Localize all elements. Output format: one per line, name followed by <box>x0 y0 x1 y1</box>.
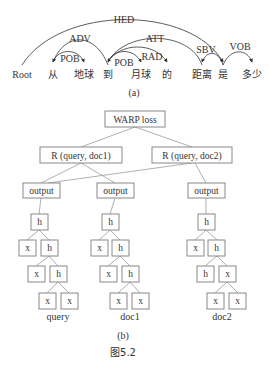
svg-text:h: h <box>37 217 42 227</box>
figure-caption: 图5.2 <box>110 347 136 358</box>
svg-text:x: x <box>235 296 240 306</box>
tree-label-doc1: doc1 <box>120 311 139 322</box>
arc-sbv <box>202 53 223 65</box>
figure-5-2: HED ADV POB ATT POB RAD SBV VOB Root 从 地… <box>0 0 270 380</box>
arc-label-pob-1: POB <box>60 53 80 64</box>
sentence-words: Root 从 地球 到 月球 的 距离 是 多少 <box>12 68 262 80</box>
arc-label-pob-2: POB <box>114 57 134 68</box>
warp-loss-label: WARP loss <box>113 115 157 125</box>
caption-b: (b) <box>117 330 129 342</box>
caption-a: (a) <box>128 87 139 99</box>
rank-label-doc2: R (query, doc2) <box>162 151 221 162</box>
warp-loss-node: WARP loss <box>105 111 165 127</box>
svg-text:h: h <box>118 243 123 253</box>
svg-text:x: x <box>213 296 218 306</box>
tree-label-doc2: doc2 <box>212 311 231 322</box>
output-node-query: output <box>23 183 60 198</box>
word: 从 <box>48 69 58 80</box>
svg-text:h: h <box>214 243 219 253</box>
output-node-doc2: output <box>188 183 225 198</box>
svg-text:x: x <box>45 296 50 306</box>
svg-text:x: x <box>67 296 72 306</box>
svg-text:x: x <box>106 269 111 279</box>
svg-text:x: x <box>193 243 198 253</box>
svg-text:x: x <box>25 243 30 253</box>
arc-label-hed: HED <box>114 14 135 25</box>
svg-text:x: x <box>34 269 39 279</box>
svg-text:h: h <box>108 217 113 227</box>
word: 的 <box>162 68 172 80</box>
svg-text:h: h <box>203 269 208 279</box>
svg-text:h: h <box>56 269 61 279</box>
svg-text:h: h <box>204 217 209 227</box>
svg-text:h: h <box>47 243 52 253</box>
word-root: Root <box>12 69 32 80</box>
svg-text:h: h <box>128 269 133 279</box>
word: 多少 <box>242 68 262 80</box>
dependency-parse: HED ADV POB ATT POB RAD SBV VOB Root 从 地… <box>12 14 262 99</box>
word: 地球 <box>74 68 94 80</box>
svg-text:output: output <box>29 186 54 196</box>
arc-label-rad: RAD <box>141 51 162 62</box>
word: 是 <box>218 69 228 80</box>
arc-label-adv: ADV <box>69 33 91 44</box>
tree-label-query: query <box>47 311 70 322</box>
svg-text:x: x <box>97 243 102 253</box>
dependency-arcs <box>22 20 252 65</box>
word: 月球 <box>131 68 151 80</box>
word: 距离 <box>192 68 212 80</box>
svg-text:output: output <box>194 186 219 196</box>
word: 到 <box>103 69 113 80</box>
svg-text:x: x <box>116 296 121 306</box>
warp-architecture: WARP loss R (query, doc1) R (query, doc2… <box>19 111 246 342</box>
rank-label-doc1: R (query, doc1) <box>51 151 110 162</box>
rank-node-doc2: R (query, doc2) <box>152 147 232 163</box>
tree-doc1: h x h x h x x doc1 <box>91 214 149 322</box>
arc-label-vob: VOB <box>229 41 250 52</box>
svg-text:x: x <box>138 296 143 306</box>
arc-label-att: ATT <box>146 33 164 44</box>
svg-text:output: output <box>103 186 128 196</box>
tree-query: h x h x h x x query <box>19 214 78 322</box>
arc-label-sbv: SBV <box>196 44 216 55</box>
rank-node-doc1: R (query, doc1) <box>40 147 122 163</box>
arc-vob <box>223 52 252 65</box>
svg-text:x: x <box>225 269 230 279</box>
output-node-doc1: output <box>97 183 134 198</box>
tree-doc2: h x h h x x x doc2 <box>187 214 246 322</box>
